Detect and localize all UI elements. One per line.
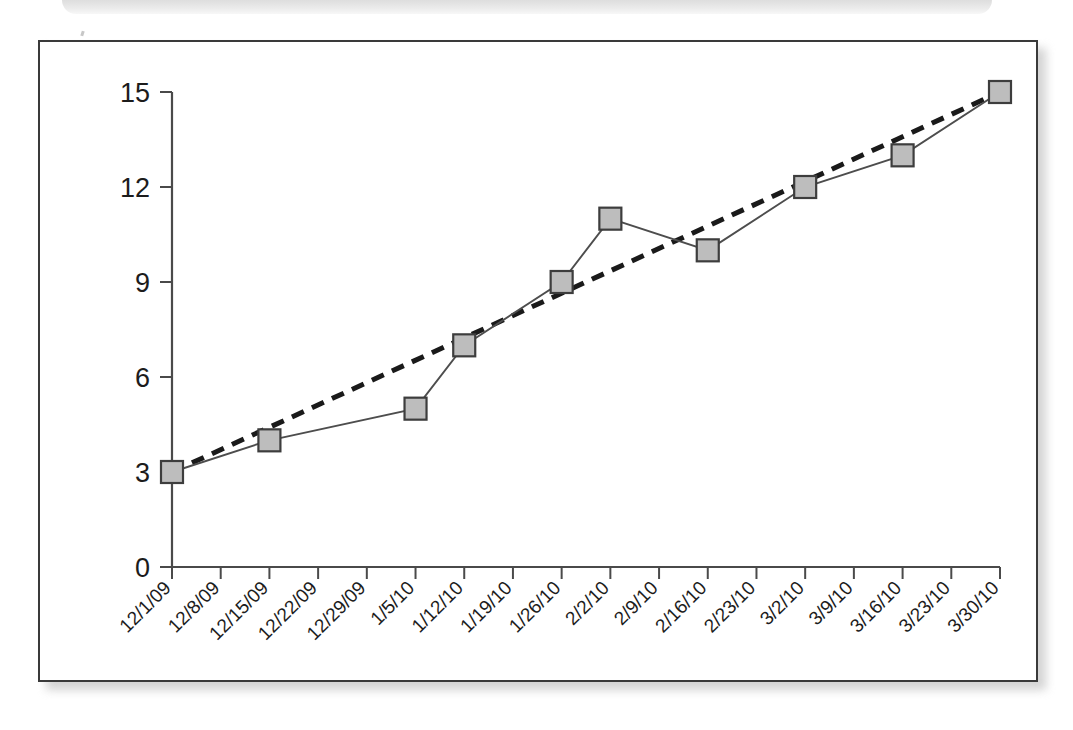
page-canvas: 15 12 9 6 3 0 12/1/0912/8/0912/15/0912/2… [0, 0, 1073, 730]
trendline-series [172, 92, 1000, 472]
y-tick-label: 3 [135, 458, 150, 488]
y-tick-label: 9 [135, 268, 150, 298]
scan-artifact-band [62, 0, 992, 14]
y-tick-label: 15 [120, 78, 150, 108]
scan-speck [80, 31, 84, 37]
data-point-marker [697, 239, 719, 261]
x-tick-label: 3/30/10 [943, 577, 1003, 637]
data-series [161, 81, 1011, 483]
y-tick-label: 12 [120, 173, 150, 203]
data-point-marker [453, 334, 475, 356]
y-tick-label: 0 [135, 553, 150, 583]
x-tick-label: 3/16/10 [846, 577, 906, 637]
data-point-marker [551, 271, 573, 293]
y-axis-tick-labels: 15 12 9 6 3 0 [120, 78, 150, 583]
x-tick-label: 2/16/10 [651, 577, 711, 637]
x-tick-label: 2/2/10 [561, 577, 613, 629]
x-tick-label: 1/19/10 [456, 577, 516, 637]
x-tick-label: 3/23/10 [894, 577, 954, 637]
x-tick-label: 1/12/10 [407, 577, 467, 637]
data-point-marker [989, 81, 1011, 103]
data-point-marker [405, 398, 427, 420]
plot-area: 15 12 9 6 3 0 12/1/0912/8/0912/15/0912/2… [40, 42, 1040, 684]
data-point-marker [161, 461, 183, 483]
data-point-marker [599, 208, 621, 230]
data-point-markers [161, 81, 1011, 483]
x-tick-label: 3/2/10 [756, 577, 808, 629]
y-tick-label: 6 [135, 363, 150, 393]
x-tick-label: 12/1/09 [115, 577, 175, 637]
x-tick-label: 2/23/10 [700, 577, 760, 637]
x-tick-label: 1/26/10 [505, 577, 565, 637]
x-axis-tick-labels: 12/1/0912/8/0912/15/0912/22/0912/29/091/… [115, 577, 1003, 644]
data-point-marker [794, 176, 816, 198]
y-axis: 15 12 9 6 3 0 [120, 78, 172, 583]
line-chart: 15 12 9 6 3 0 12/1/0912/8/0912/15/0912/2… [40, 42, 1038, 680]
data-point-marker [892, 144, 914, 166]
x-axis: 12/1/0912/8/0912/15/0912/22/0912/29/091/… [115, 567, 1003, 644]
data-point-marker [258, 429, 280, 451]
x-axis-ticks [172, 567, 1000, 579]
figure-frame: 15 12 9 6 3 0 12/1/0912/8/0912/15/0912/2… [38, 40, 1038, 682]
y-axis-ticks [160, 92, 172, 567]
